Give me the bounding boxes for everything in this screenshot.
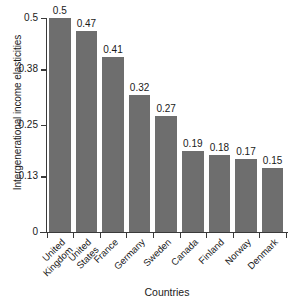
x-tick-mark xyxy=(180,233,181,238)
bar[interactable] xyxy=(155,116,177,232)
x-tick-mark xyxy=(100,233,101,238)
x-axis-title: Countries xyxy=(0,286,294,298)
x-axis-title-text: Countries xyxy=(105,286,190,298)
y-tick-label: 0.25 xyxy=(0,120,38,130)
bar[interactable] xyxy=(182,151,204,232)
bar-value-label: 0.32 xyxy=(124,82,156,93)
y-tick-label: 0.38 xyxy=(0,64,38,74)
bar[interactable] xyxy=(129,95,151,232)
bar[interactable] xyxy=(235,159,257,232)
bar[interactable] xyxy=(76,31,98,232)
bar[interactable] xyxy=(262,168,284,232)
bar[interactable] xyxy=(102,57,124,232)
x-tick-mark xyxy=(73,233,74,238)
bar-value-label: 0.5 xyxy=(44,5,76,16)
x-tick-mark xyxy=(233,233,234,238)
y-tick-label: 0.13 xyxy=(0,171,38,181)
x-tick-mark xyxy=(286,233,287,238)
x-tick-mark xyxy=(206,233,207,238)
y-tick-label: 0.5 xyxy=(0,13,38,23)
x-tick-mark xyxy=(153,233,154,238)
bar-value-label: 0.47 xyxy=(71,18,103,29)
x-tick-mark xyxy=(126,233,127,238)
plot-area: 0.50.470.410.320.270.190.180.170.15 xyxy=(47,18,287,232)
x-axis-line xyxy=(40,232,288,233)
bar-value-label: 0.27 xyxy=(150,103,182,114)
y-axis-title: Intergenerational income elasticities xyxy=(12,3,23,223)
bar[interactable] xyxy=(209,155,231,232)
y-tick-label: 0 xyxy=(0,227,38,237)
bar-value-label: 0.41 xyxy=(97,44,129,55)
bar[interactable] xyxy=(49,18,71,232)
bar-chart: Intergenerational income elasticities 00… xyxy=(0,0,294,303)
bar-value-label: 0.15 xyxy=(257,155,289,166)
x-tick-mark xyxy=(259,233,260,238)
x-tick-mark xyxy=(47,233,48,238)
